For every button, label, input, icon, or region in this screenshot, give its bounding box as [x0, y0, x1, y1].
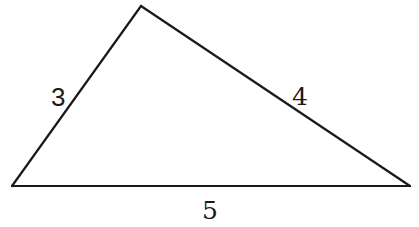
side-left [12, 6, 141, 186]
side-right [141, 6, 410, 186]
side-left-label: 3 [51, 84, 65, 110]
triangle-diagram [0, 0, 419, 227]
side-right-label: 4 [292, 84, 308, 109]
side-base-label: 5 [202, 198, 218, 223]
